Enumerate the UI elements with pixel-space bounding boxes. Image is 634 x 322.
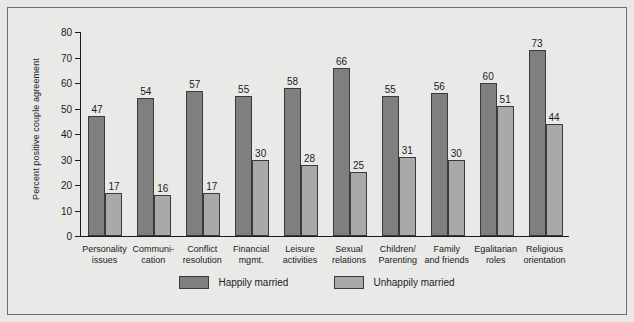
legend-label: Unhappily married xyxy=(373,277,454,288)
bar-value-label: 66 xyxy=(336,56,347,67)
bar-happy[interactable]: 54 xyxy=(137,98,154,236)
y-tick-mark xyxy=(75,58,80,59)
chart-legend: Happily marriedUnhappily married xyxy=(8,276,626,289)
bar-group: 6051 xyxy=(480,32,514,236)
bar-value-label: 56 xyxy=(434,81,445,92)
y-tick-label: 40 xyxy=(61,129,72,140)
bar-unhappy[interactable]: 30 xyxy=(252,160,269,237)
y-tick-label: 60 xyxy=(61,78,72,89)
bar-group: 4717 xyxy=(88,32,122,236)
bar-value-label: 60 xyxy=(483,71,494,82)
bar-unhappy[interactable]: 17 xyxy=(105,193,122,236)
bar-group: 6625 xyxy=(333,32,367,236)
bar-value-label: 28 xyxy=(304,153,315,164)
y-tick-mark xyxy=(75,185,80,186)
bar-unhappy[interactable]: 17 xyxy=(203,193,220,236)
bar-unhappy[interactable]: 25 xyxy=(350,172,367,236)
y-tick-mark xyxy=(75,83,80,84)
bar-unhappy[interactable]: 16 xyxy=(154,195,171,236)
bar-value-label: 31 xyxy=(402,145,413,156)
bar-happy[interactable]: 66 xyxy=(333,68,350,236)
bar-happy[interactable]: 47 xyxy=(88,116,105,236)
bar-value-label: 58 xyxy=(287,76,298,87)
bar-unhappy[interactable]: 28 xyxy=(301,165,318,236)
y-tick-label: 10 xyxy=(61,205,72,216)
y-tick-label: 50 xyxy=(61,103,72,114)
chart-figure: Percent positive couple agreement 010203… xyxy=(0,0,634,322)
bar-value-label: 73 xyxy=(531,38,542,49)
bar-unhappy[interactable]: 31 xyxy=(399,157,416,236)
bar-group: 5530 xyxy=(235,32,269,236)
bar-value-label: 30 xyxy=(255,148,266,159)
y-tick-mark xyxy=(75,236,80,237)
bar-value-label: 54 xyxy=(140,86,151,97)
y-tick-label: 20 xyxy=(61,180,72,191)
y-tick-mark xyxy=(75,211,80,212)
bar-happy[interactable]: 55 xyxy=(235,96,252,236)
bar-value-label: 55 xyxy=(238,84,249,95)
y-axis-title: Percent positive couple agreement xyxy=(31,29,41,229)
y-tick-mark xyxy=(75,134,80,135)
bar-value-label: 47 xyxy=(91,104,102,115)
chart-frame: Percent positive couple agreement 010203… xyxy=(7,7,627,315)
bar-value-label: 16 xyxy=(157,183,168,194)
bar-value-label: 44 xyxy=(548,112,559,123)
y-axis-line xyxy=(80,32,81,237)
legend-item[interactable]: Unhappily married xyxy=(334,276,454,289)
bar-value-label: 51 xyxy=(500,94,511,105)
y-tick-label: 70 xyxy=(61,52,72,63)
y-tick-mark xyxy=(75,160,80,161)
bar-value-label: 17 xyxy=(108,181,119,192)
bar-group: 7344 xyxy=(529,32,563,236)
bar-happy[interactable]: 58 xyxy=(284,88,301,236)
bar-happy[interactable]: 60 xyxy=(480,83,497,236)
x-axis-label: Religious orientation xyxy=(516,244,573,266)
y-tick-label: 0 xyxy=(66,231,72,242)
bar-unhappy[interactable]: 30 xyxy=(448,160,465,237)
bar-value-label: 17 xyxy=(206,181,217,192)
x-axis-line xyxy=(80,236,569,237)
bar-happy[interactable]: 55 xyxy=(382,96,399,236)
bar-group: 5531 xyxy=(382,32,416,236)
bar-group: 5717 xyxy=(186,32,220,236)
legend-item[interactable]: Happily married xyxy=(179,276,288,289)
bar-value-label: 57 xyxy=(189,79,200,90)
bar-value-label: 30 xyxy=(451,148,462,159)
bar-happy[interactable]: 56 xyxy=(431,93,448,236)
legend-swatch-happy xyxy=(179,276,209,289)
plot-area: 01020304050607080 4717541657175530582866… xyxy=(80,32,569,237)
bar-happy[interactable]: 73 xyxy=(529,50,546,236)
bar-unhappy[interactable]: 51 xyxy=(497,106,514,236)
y-tick-mark xyxy=(75,32,80,33)
bar-group: 5416 xyxy=(137,32,171,236)
legend-label: Happily married xyxy=(218,277,288,288)
y-tick-mark xyxy=(75,109,80,110)
legend-swatch-unhappy xyxy=(334,276,364,289)
y-tick-label: 80 xyxy=(61,27,72,38)
bar-group: 5630 xyxy=(431,32,465,236)
bar-group: 5828 xyxy=(284,32,318,236)
y-tick-label: 30 xyxy=(61,154,72,165)
bar-value-label: 25 xyxy=(353,160,364,171)
bar-unhappy[interactable]: 44 xyxy=(546,124,563,236)
bar-happy[interactable]: 57 xyxy=(186,91,203,236)
bar-value-label: 55 xyxy=(385,84,396,95)
